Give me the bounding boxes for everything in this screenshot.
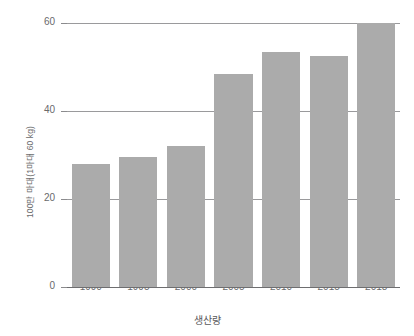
bar <box>262 52 300 287</box>
bar <box>167 146 205 287</box>
bar-chart: 100만 마대(1마대 60 kg) 0204060 생산량 199019952… <box>0 0 414 336</box>
x-axis-baseline <box>67 287 400 288</box>
plot-area: 0204060 <box>67 10 400 287</box>
bar-series <box>67 10 400 287</box>
bar <box>310 56 348 287</box>
y-axis-tick-label: 20 <box>9 192 55 203</box>
bar <box>357 23 395 287</box>
bar <box>72 164 110 287</box>
y-axis-tick-label: 40 <box>9 104 55 115</box>
y-axis-tick-label: 0 <box>9 280 55 291</box>
y-axis-title: 100만 마대(1마대 60 kg) <box>13 0 25 88</box>
bar <box>119 157 157 287</box>
bar <box>214 74 252 287</box>
x-axis-title: 생산량 <box>0 312 414 327</box>
y-axis-tick-label: 60 <box>9 16 55 27</box>
